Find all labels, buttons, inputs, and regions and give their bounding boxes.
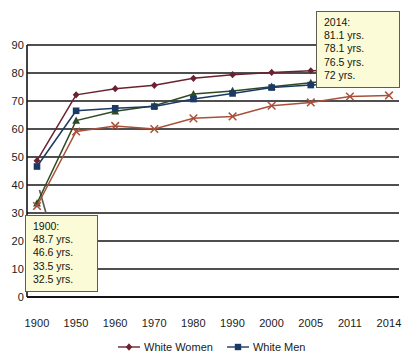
x-tick-label-1960: 1960	[103, 317, 128, 329]
callout-1900-line-0: 1900:	[33, 220, 92, 233]
annotation-callout-1900: 1900:48.7 yrs.46.6 yrs.33.5 yrs.32.5 yrs…	[25, 215, 98, 292]
chart-legend: White Women White Men	[118, 341, 305, 353]
data-point-1970	[151, 103, 158, 110]
x-tick-label-1990: 1990	[220, 317, 245, 329]
annotation-callout-2014: 2014:81.1 yrs.78.1 yrs.76.5 yrs.72 yrs.	[316, 11, 400, 88]
data-point-1990	[229, 71, 236, 78]
legend-marker-square-icon	[227, 341, 249, 353]
callout-1900-line-4: 32.5 yrs.	[33, 273, 92, 286]
data-point-1990	[229, 90, 236, 97]
legend-marker-diamond-icon	[118, 341, 140, 353]
data-point-2000	[268, 84, 275, 91]
data-point-1980	[190, 75, 197, 82]
data-point-2000	[268, 69, 275, 76]
x-tick-label-1900: 1900	[25, 317, 50, 329]
callout-2014-line-1: 81.1 yrs.	[324, 29, 394, 42]
chart-container: 90 80 70 60 50 40 30 20 10 0 2014:81.1 y…	[0, 0, 406, 364]
x-tick-label-2014: 2014	[377, 317, 402, 329]
data-point-1950	[73, 108, 80, 115]
x-tick-label-2005: 2005	[298, 317, 323, 329]
x-tick-label-1970: 1970	[142, 317, 167, 329]
x-tick-label-2000: 2000	[259, 317, 284, 329]
legend-entry-white-men[interactable]: White Men	[227, 341, 306, 353]
data-point-1960	[112, 105, 119, 112]
callout-2014-line-3: 76.5 yrs.	[324, 56, 394, 69]
data-point-2005	[307, 82, 314, 89]
x-tick-label-1980: 1980	[181, 317, 206, 329]
data-point-1960	[112, 85, 119, 92]
x-tick-label-1950: 1950	[64, 317, 89, 329]
callout-1900-line-3: 33.5 yrs.	[33, 260, 92, 273]
x-tick-label-2011: 2011	[338, 317, 362, 329]
callout-2014-line-4: 72 yrs.	[324, 69, 394, 82]
legend-label-white-men: White Men	[253, 341, 306, 353]
callout-2014-line-2: 78.1 yrs.	[324, 42, 394, 55]
data-point-1950	[73, 91, 80, 98]
legend-entry-white-women[interactable]: White Women	[118, 341, 213, 353]
series-black-women	[33, 74, 393, 206]
callout-1900-line-2: 46.6 yrs.	[33, 246, 92, 259]
legend-label-white-women: White Women	[144, 341, 213, 353]
data-point-1980	[190, 96, 197, 103]
series-black-men	[33, 92, 393, 210]
callout-1900-line-1: 48.7 yrs.	[33, 233, 92, 246]
callout-2014-line-0: 2014:	[324, 16, 394, 29]
data-point-1970	[151, 82, 158, 89]
